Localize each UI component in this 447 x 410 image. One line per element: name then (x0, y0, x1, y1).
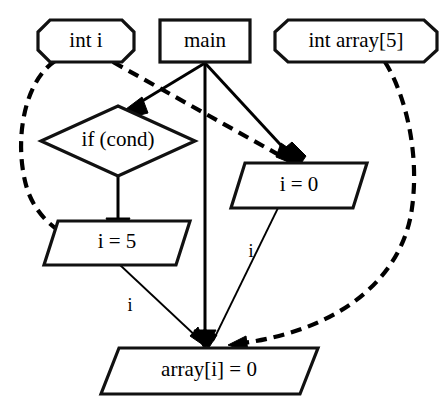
node-main[interactable]: main (160, 20, 250, 62)
edge-label-i-left: i (127, 295, 132, 315)
node-int-array-shape (275, 20, 437, 62)
edge-main-to-i-eq-0[interactable] (205, 63, 306, 165)
edge-main-to-if-cond-path (134, 63, 205, 106)
node-if-cond[interactable]: if (cond) (41, 106, 195, 176)
edge-i-eq-0-to-array-i-path (213, 208, 278, 341)
edge-main-to-i-eq-0-path (205, 63, 290, 155)
node-int-i-shape (38, 20, 134, 62)
edge-main-to-array-i[interactable] (194, 63, 216, 350)
node-int-array[interactable]: int array[5] (275, 20, 437, 62)
node-array-i-eq-0[interactable]: array[i] = 0 (101, 348, 318, 394)
node-int-i[interactable]: int i (38, 20, 134, 62)
node-i-eq-5-shape (44, 221, 190, 265)
node-main-shape (160, 20, 250, 62)
node-i-eq-0-shape (231, 163, 367, 208)
edge-i-eq-0-to-array-i[interactable] (204, 208, 278, 349)
dependence-graph: int i main int array[5] if (cond) i = 0 … (0, 0, 447, 410)
node-array-i-eq-0-shape (101, 348, 318, 394)
diagram-canvas: int i main int array[5] if (cond) i = 0 … (0, 0, 447, 410)
edge-i-eq-5-to-array-i[interactable] (120, 265, 206, 347)
node-i-eq-0[interactable]: i = 0 (231, 163, 367, 208)
edge-i-eq-5-to-array-i-path (120, 265, 200, 340)
node-if-cond-shape (41, 106, 195, 176)
node-i-eq-5[interactable]: i = 5 (44, 221, 190, 265)
